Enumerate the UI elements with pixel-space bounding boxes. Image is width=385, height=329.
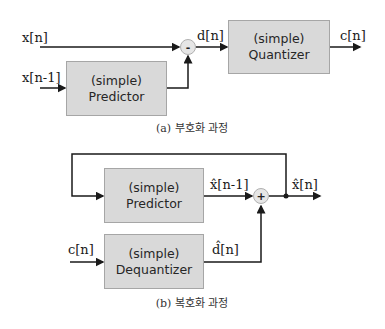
input-x-n-label: x[n] [22, 30, 48, 45]
pred-out-label: x̂[n-1] [210, 177, 249, 192]
caption-encoding: (a) 부호화 과정 [156, 119, 228, 135]
block-label-line2: Predictor [89, 89, 145, 105]
diff-d-n-label: d[n] [197, 28, 224, 43]
block-label-line2: Quantizer [248, 47, 309, 63]
block-label-line1: (simple) [128, 180, 179, 196]
block-label-line2: Predictor [126, 196, 182, 212]
junction-dot [284, 194, 289, 199]
input-c-n-label: c[n] [68, 242, 94, 257]
encoder-predictor-block: (simple) Predictor [66, 61, 167, 116]
block-label-line1: (simple) [128, 246, 179, 262]
dequantizer-block: (simple) Dequantizer [104, 234, 204, 289]
quantizer-block: (simple) Quantizer [228, 20, 330, 74]
block-label-line1: (simple) [91, 73, 142, 89]
output-x-hat-n-label: x̂[n] [292, 177, 318, 192]
add-operator-icon: + [253, 188, 269, 204]
deq-out-label: d̂[n] [212, 242, 239, 257]
decoder-predictor-block: (simple) Predictor [104, 168, 204, 223]
block-label-line2: Dequantizer [116, 262, 193, 278]
subtract-operator-icon: - [180, 39, 196, 55]
output-c-n-label: c[n] [340, 28, 366, 43]
block-label-line1: (simple) [253, 31, 304, 47]
input-x-n-minus-1-label: x[n-1] [22, 70, 61, 85]
caption-decoding: (b) 복호화 과정 [156, 294, 229, 310]
